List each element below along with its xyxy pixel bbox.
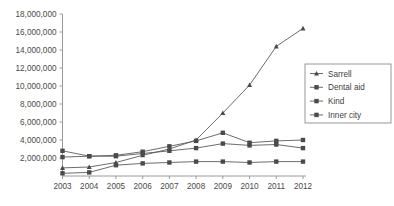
chart-legend: SarrellDental aidKindInner city <box>305 64 391 123</box>
series-polyline <box>63 144 304 157</box>
x-tick-label: 2011 <box>267 182 285 191</box>
data-point-marker <box>221 141 225 145</box>
data-point-marker <box>301 146 305 150</box>
legend-entry-label: Sarrell <box>328 70 352 79</box>
data-point-marker <box>167 160 171 164</box>
y-tick-label: 16,000,000 <box>16 28 57 37</box>
data-point-marker <box>274 159 278 163</box>
data-point-marker <box>114 163 118 167</box>
series-polyline <box>63 28 304 168</box>
y-tick-label: 2,000,000 <box>20 154 57 163</box>
x-tick-label: 2005 <box>107 182 126 191</box>
data-point-marker <box>274 44 279 49</box>
legend-entry-label: Inner city <box>328 111 362 120</box>
data-point-marker <box>194 159 198 163</box>
data-point-marker <box>247 160 251 164</box>
y-tick-label: 10,000,000 <box>16 82 57 91</box>
y-tick-label: 8,000,000 <box>20 100 57 109</box>
data-point-marker <box>274 142 278 146</box>
line-chart-figure: 2,000,0004,000,0006,000,0008,000,00010,0… <box>0 0 394 206</box>
data-point-marker <box>60 171 64 175</box>
data-point-marker <box>140 151 144 155</box>
x-tick-label: 2006 <box>134 182 153 191</box>
data-point-marker <box>140 161 144 165</box>
x-tick-label: 2008 <box>187 182 206 191</box>
data-point-marker <box>87 170 91 174</box>
data-point-marker <box>301 26 306 31</box>
chart-canvas: 2,000,0004,000,0006,000,0008,000,00010,0… <box>0 0 394 206</box>
legend-entry-label: Dental aid <box>328 83 365 92</box>
y-tick-label: 4,000,000 <box>20 136 57 145</box>
data-point-marker <box>114 154 118 158</box>
data-point-marker <box>167 149 171 153</box>
data-point-marker <box>167 144 171 148</box>
data-point-marker <box>314 85 318 89</box>
data-point-marker <box>221 159 225 163</box>
y-tick-label: 18,000,000 <box>16 10 57 19</box>
series-group <box>60 159 305 175</box>
data-point-marker <box>194 146 198 150</box>
series-group <box>60 26 306 170</box>
x-tick-label: 2003 <box>53 182 72 191</box>
x-tick-label: 2012 <box>294 182 313 191</box>
data-point-marker <box>221 131 225 135</box>
x-tick-label: 2007 <box>160 182 179 191</box>
data-point-marker <box>314 113 318 117</box>
data-point-marker <box>301 159 305 163</box>
y-tick-label: 12,000,000 <box>16 64 57 73</box>
data-point-marker <box>314 99 318 103</box>
x-tick-label: 2010 <box>240 182 259 191</box>
data-point-marker <box>247 143 251 147</box>
series-polyline <box>63 162 304 174</box>
data-point-marker <box>194 139 198 143</box>
data-point-marker <box>60 149 64 153</box>
x-tick-label: 2009 <box>214 182 233 191</box>
y-tick-label: 6,000,000 <box>20 118 57 127</box>
data-point-marker <box>60 155 64 159</box>
x-tick-label: 2004 <box>80 182 99 191</box>
data-point-marker <box>301 138 305 142</box>
y-tick-label: 14,000,000 <box>16 46 57 55</box>
data-point-marker <box>87 154 91 158</box>
legend-entry-label: Kind <box>328 97 345 106</box>
